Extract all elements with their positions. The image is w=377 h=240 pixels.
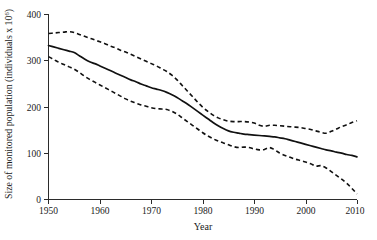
series-group (49, 32, 358, 194)
y-tick-labels: 400 300 200 100 0 (27, 10, 42, 205)
y-tick-label-300: 300 (27, 56, 42, 66)
y-tick-label-200: 200 (27, 103, 42, 113)
y-tick-label-0: 0 (36, 195, 41, 205)
y-axis-title-text: Size of monitored population (individual… (3, 16, 15, 199)
x-tick-label-1960: 1960 (91, 206, 110, 216)
x-tick-marks (49, 200, 358, 204)
x-tick-label-1950: 1950 (39, 206, 58, 216)
y-tick-label-400: 400 (27, 10, 42, 20)
x-tick-label-1990: 1990 (245, 206, 264, 216)
y-axis-title: Size of monitored population (individual… (3, 9, 15, 199)
series-lower-bound (49, 57, 358, 194)
y-tick-label-100: 100 (27, 149, 42, 159)
x-tick-labels: 1950 1960 1970 1980 1990 2000 2010 (39, 206, 365, 216)
series-mean (49, 46, 358, 157)
x-tick-label-1980: 1980 (194, 206, 213, 216)
x-axis-title: Year (194, 221, 213, 232)
x-tick-label-1970: 1970 (142, 206, 161, 216)
x-tick-label-2000: 2000 (297, 206, 316, 216)
line-chart: Size of monitored population (individual… (0, 0, 377, 240)
x-tick-label-2010: 2010 (346, 206, 365, 216)
chart-figure: Size of monitored population (individual… (0, 0, 377, 240)
y-axis-title-close: ) (3, 9, 15, 12)
y-tick-marks (44, 15, 48, 200)
